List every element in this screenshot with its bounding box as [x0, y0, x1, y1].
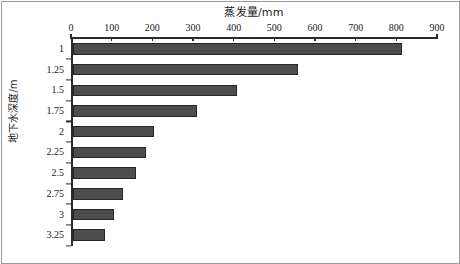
y-tick-label: 3.25	[47, 229, 65, 241]
x-tick-label: 400	[226, 21, 241, 34]
y-tick-mark	[66, 204, 71, 205]
y-tick-mark	[66, 162, 71, 163]
x-tick-label: 300	[186, 21, 201, 34]
x-tick-mark	[436, 34, 437, 39]
x-tick-label: 100	[104, 21, 119, 34]
y-tick-label: 2.75	[47, 188, 65, 200]
y-tick-mark	[66, 183, 71, 184]
y-tick-mark	[66, 59, 71, 60]
x-tick-mark	[192, 37, 193, 41]
bar-chart-figure: 蒸发量/mm 0100200300400500600700800900 地下水深…	[0, 0, 460, 264]
bar	[73, 85, 238, 97]
y-tick-mark	[66, 121, 71, 122]
y-tick-label: 1.75	[47, 105, 65, 117]
bar	[73, 126, 154, 138]
bar	[73, 209, 115, 221]
x-tick-mark	[70, 34, 71, 39]
y-tick-label: 1.25	[47, 64, 65, 76]
bar	[73, 188, 124, 200]
bar	[73, 105, 197, 117]
y-tick-mark	[66, 79, 71, 80]
x-tick-label: 500	[267, 21, 282, 34]
plot-area	[73, 39, 437, 246]
y-tick-mark	[66, 245, 71, 246]
x-tick-label: 700	[348, 21, 363, 34]
x-tick-mark	[274, 37, 275, 41]
x-axis-tick-labels: 0100200300400500600700800900	[0, 21, 460, 35]
bar	[73, 147, 146, 159]
y-tick-mark	[66, 224, 71, 225]
x-tick-label: 900	[430, 21, 445, 34]
x-tick-mark	[233, 37, 234, 41]
y-tick-mark	[66, 142, 71, 143]
x-tick-mark	[396, 37, 397, 41]
bar	[73, 167, 136, 179]
x-axis-title: 蒸发量/mm	[71, 6, 437, 19]
x-tick-mark	[355, 37, 356, 41]
y-axis-title: 地下水深度/m	[8, 71, 20, 151]
y-tick-mark	[66, 100, 71, 101]
bar	[73, 43, 402, 55]
y-tick-label: 2.25	[47, 146, 65, 158]
y-tick-label: 1.5	[52, 84, 65, 96]
x-tick-label: 200	[145, 21, 160, 34]
x-tick-label: 0	[69, 21, 74, 34]
y-tick-label: 2.5	[52, 167, 65, 179]
y-tick-label: 1	[59, 43, 64, 55]
x-tick-mark	[152, 37, 153, 41]
bar	[73, 64, 299, 76]
x-tick-label: 800	[389, 21, 404, 34]
x-tick-mark	[314, 37, 315, 41]
x-tick-mark	[111, 37, 112, 41]
y-tick-label: 3	[59, 209, 64, 221]
bar	[73, 229, 106, 241]
y-tick-label: 2	[59, 126, 64, 138]
x-tick-label: 600	[308, 21, 323, 34]
